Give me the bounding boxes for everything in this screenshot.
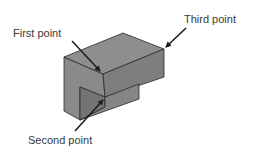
third-point-arrow [166,28,186,47]
l-shaped-block [64,33,164,120]
first-point-label: First point [13,28,61,39]
second-point-label: Second point [28,135,92,146]
third-point-label: Third point [184,14,236,25]
